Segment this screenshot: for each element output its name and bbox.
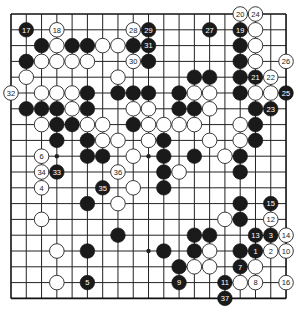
- white-stone-circle: [126, 149, 141, 164]
- white-stone: [202, 133, 217, 148]
- black-stone: [233, 70, 248, 85]
- move-number-label: 17: [22, 26, 30, 35]
- move-number-label: 30: [129, 57, 137, 66]
- black-stone: [126, 117, 141, 132]
- black-stone-circle: [126, 117, 141, 132]
- white-stone-circle: [157, 117, 172, 132]
- black-stone: [80, 149, 95, 164]
- white-stone-circle: [187, 260, 202, 275]
- black-stone: [233, 244, 248, 259]
- white-stone: [141, 102, 156, 117]
- star-point: [146, 249, 150, 253]
- white-stone: [248, 260, 263, 275]
- black-stone: [172, 102, 187, 117]
- white-stone-circle: [95, 133, 110, 148]
- black-stone-circle: [157, 165, 172, 180]
- black-stone: 27: [202, 23, 217, 38]
- white-stone: [95, 38, 110, 53]
- black-stone: 1: [248, 244, 263, 259]
- move-number-label: 3: [269, 231, 273, 240]
- black-stone: 11: [218, 275, 233, 290]
- black-stone-circle: [202, 228, 217, 243]
- white-stone-circle: [187, 86, 202, 101]
- white-stone: [34, 86, 49, 101]
- black-stone-circle: [111, 228, 126, 243]
- white-stone: [187, 260, 202, 275]
- white-stone-circle: [248, 260, 263, 275]
- black-stone: [233, 38, 248, 53]
- black-stone: 35: [95, 181, 110, 196]
- move-number-label: 29: [144, 26, 152, 35]
- move-number-label: 24: [251, 10, 259, 19]
- black-stone-circle: [233, 54, 248, 69]
- black-stone: 33: [50, 165, 65, 180]
- white-stone: [50, 38, 65, 53]
- black-stone: 13: [248, 228, 263, 243]
- white-stone: [202, 260, 217, 275]
- black-stone: 9: [172, 275, 187, 290]
- white-stone-circle: [141, 102, 156, 117]
- white-stone: 4: [34, 181, 49, 196]
- black-stone-circle: [34, 102, 49, 117]
- white-stone-circle: [126, 181, 141, 196]
- black-stone: [95, 149, 110, 164]
- white-stone: [141, 117, 156, 132]
- black-stone: [50, 117, 65, 132]
- white-stone-circle: [50, 275, 65, 290]
- move-number-label: 8: [253, 278, 257, 287]
- white-stone-circle: [65, 86, 80, 101]
- white-stone-circle: [141, 117, 156, 132]
- white-stone: 14: [279, 228, 294, 243]
- move-number-label: 32: [7, 89, 15, 98]
- move-number-label: 20: [236, 10, 244, 19]
- white-stone: [34, 54, 49, 69]
- white-stone-circle: [95, 117, 110, 132]
- move-number-label: 7: [238, 263, 242, 272]
- black-stone-circle: [95, 149, 110, 164]
- white-stone-circle: [202, 86, 217, 101]
- white-stone: [50, 244, 65, 259]
- black-stone: [65, 117, 80, 132]
- white-stone-circle: [233, 275, 248, 290]
- white-stone-circle: [141, 133, 156, 148]
- white-stone: 20: [233, 7, 248, 22]
- white-stone: 6: [34, 149, 49, 164]
- black-stone: [34, 38, 49, 53]
- black-stone: [157, 165, 172, 180]
- star-point: [55, 154, 59, 158]
- black-stone: 7: [233, 260, 248, 275]
- black-stone-circle: [80, 86, 95, 101]
- black-stone: [233, 86, 248, 101]
- white-stone-circle: [248, 23, 263, 38]
- move-number-label: 36: [114, 168, 122, 177]
- black-stone-circle: [157, 149, 172, 164]
- white-stone-circle: [34, 54, 49, 69]
- white-stone: 8: [248, 275, 263, 290]
- black-stone: [248, 102, 263, 117]
- black-stone: [80, 133, 95, 148]
- go-board: 2024171828292719313026212232252363433364…: [0, 0, 298, 313]
- white-stone: [157, 117, 172, 132]
- white-stone: [248, 23, 263, 38]
- move-number-label: 37: [221, 294, 229, 303]
- white-stone-circle: [248, 54, 263, 69]
- move-number-label: 16: [282, 278, 290, 287]
- move-number-label: 2: [269, 247, 273, 256]
- star-point: [146, 154, 150, 158]
- black-stone: [19, 102, 34, 117]
- black-stone: [126, 86, 141, 101]
- move-number-label: 33: [53, 168, 61, 177]
- white-stone: [95, 133, 110, 148]
- black-stone-circle: [233, 86, 248, 101]
- white-stone-circle: [80, 54, 95, 69]
- black-stone: [233, 212, 248, 227]
- white-stone: [202, 244, 217, 259]
- white-stone: [50, 54, 65, 69]
- white-stone-circle: [172, 117, 187, 132]
- black-stone: [141, 86, 156, 101]
- black-stone: [157, 181, 172, 196]
- black-stone: [111, 228, 126, 243]
- white-stone-circle: [50, 38, 65, 53]
- white-stone: 26: [279, 54, 294, 69]
- white-stone: [248, 54, 263, 69]
